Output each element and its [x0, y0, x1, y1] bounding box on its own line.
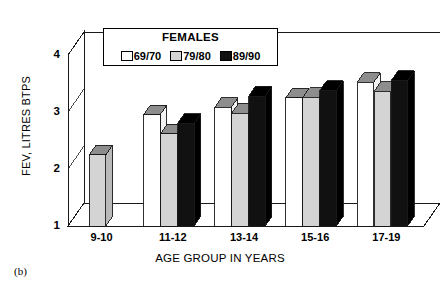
y-axis-title: FEV, LITRES BTPS: [20, 46, 32, 206]
bar-15-16-89-90: [320, 81, 343, 226]
legend-swatch-69-70: [121, 51, 133, 61]
y-tick-label: 3: [44, 105, 60, 117]
x-tick-label-17-19: 17-19: [356, 231, 416, 243]
chart-legend: FEMALES 69/70 79/80 89/90: [103, 28, 278, 66]
legend-label-79-80: 79/80: [183, 50, 211, 62]
legend-label-89-90: 89/90: [233, 50, 261, 62]
x-tick-label-13-14: 13-14: [214, 231, 274, 243]
bar-9-10-79-80: [89, 145, 112, 226]
legend-swatch-89-90: [220, 51, 232, 61]
x-tick-label-9-10: 9-10: [72, 231, 132, 243]
figure-caption: (b): [14, 265, 27, 277]
y-tick-label: 4: [44, 48, 60, 60]
bar-17-19-89-90: [391, 71, 414, 226]
legend-item-69-70: 69/70: [121, 50, 162, 62]
legend-label-69-70: 69/70: [134, 50, 162, 62]
legend-items: 69/70 79/80 89/90: [104, 46, 277, 65]
legend-item-79-80: 79/80: [170, 50, 211, 62]
bar-13-14-89-90: [249, 86, 272, 226]
bar-11-12-89-90: [178, 114, 201, 226]
x-axis-title: AGE GROUP IN YEARS: [0, 252, 440, 264]
y-tick-label: 2: [44, 162, 60, 174]
y-tick-label: 1: [44, 219, 60, 231]
x-tick-label-15-16: 15-16: [285, 231, 345, 243]
legend-title: FEMALES: [104, 29, 277, 46]
legend-swatch-79-80: [170, 51, 182, 61]
x-tick-label-11-12: 11-12: [143, 231, 203, 243]
figure-panel: FEV, LITRES BTPS 1 2 3 4 9-10 11-12 13-1…: [0, 0, 440, 286]
legend-item-89-90: 89/90: [220, 50, 261, 62]
